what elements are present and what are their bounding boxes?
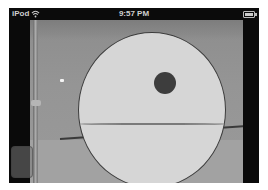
- overlay-circle[interactable]: [78, 32, 226, 183]
- clock: 9:57 PM: [9, 8, 259, 20]
- horizon-line: [79, 123, 226, 125]
- translucent-button[interactable]: [11, 146, 33, 178]
- battery-icon: [243, 11, 255, 18]
- right-letterbox: [243, 20, 259, 183]
- pole-bracket: [31, 100, 41, 106]
- device-screen: iPod 9:57 PM: [9, 8, 259, 183]
- camera-view[interactable]: [30, 20, 243, 183]
- status-bar: iPod 9:57 PM: [9, 8, 259, 20]
- light-spot: [60, 79, 64, 82]
- marker-dot[interactable]: [154, 72, 176, 94]
